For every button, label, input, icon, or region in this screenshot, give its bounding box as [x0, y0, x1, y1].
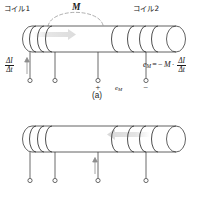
- panel-a-caption: (a): [92, 92, 102, 100]
- rate-denominator-a: Δt: [5, 65, 14, 74]
- emf-subscript-a: M: [118, 87, 122, 92]
- equation-a-coefficient: M: [162, 60, 170, 69]
- equation-a-equals: =: [151, 60, 158, 69]
- equation-a-fraction: ΔI Δt: [177, 57, 186, 73]
- equation-a-denominator: Δt: [177, 65, 186, 74]
- panel-a: コイル1 コイル2 M ΔI Δt + − eM eM=−M· ΔI Δt (a…: [0, 0, 205, 105]
- coil2-label: コイル2: [133, 5, 159, 12]
- rate-of-change-a: ΔI Δt: [5, 56, 14, 73]
- coil1-label: コイル1: [4, 5, 30, 12]
- equation-a-numerator: ΔI: [177, 57, 186, 65]
- rate-numerator-a: ΔI: [5, 57, 14, 65]
- equation-a: eM=−M· ΔI Δt: [143, 57, 186, 73]
- equation-a-dot: ·: [171, 60, 176, 69]
- panel-b: ΔI Δt + − eM eM=−M· ΔI Δt (b): [0, 103, 205, 207]
- terminal-sign-negative-a: −: [144, 83, 149, 92]
- emf-label-a: eM: [115, 85, 122, 92]
- mutual-inductance-label: M: [72, 3, 80, 13]
